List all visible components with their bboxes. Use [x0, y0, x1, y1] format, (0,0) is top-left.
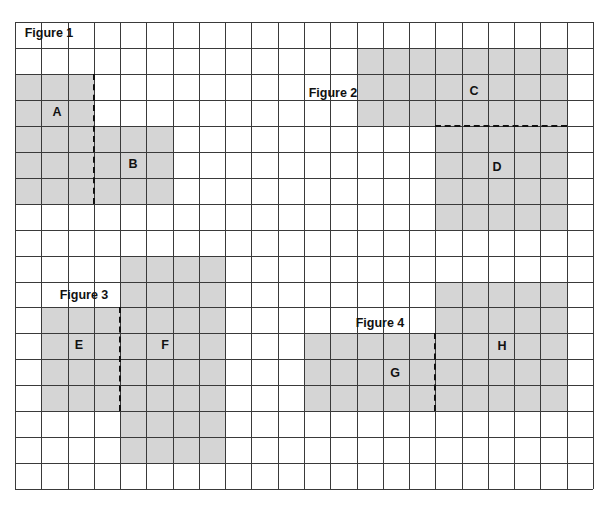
- grid-line-horizontal: [15, 230, 593, 231]
- grid-line-horizontal: [15, 100, 593, 101]
- figure-3-title: Figure 3: [60, 289, 109, 302]
- region-e-label: E: [75, 339, 83, 352]
- shaded-region-g: [304, 333, 435, 411]
- grid-diagram: Figure 1 A B Figure 2 C D Figure 3 E F F…: [0, 0, 608, 508]
- grid-line-horizontal: [15, 333, 593, 334]
- figure-1-title: Figure 1: [25, 27, 74, 40]
- cut-line-figure-1: [93, 74, 95, 204]
- shaded-region-a: [15, 74, 94, 204]
- grid-line-horizontal: [15, 307, 593, 308]
- grid-line-horizontal: [15, 359, 593, 360]
- grid-line-horizontal: [15, 22, 593, 23]
- grid-line-horizontal: [15, 152, 593, 153]
- grid-line-horizontal: [15, 204, 593, 205]
- grid-line-horizontal: [15, 256, 593, 257]
- cut-line-figure-2: [435, 125, 566, 127]
- grid-line-horizontal: [15, 74, 593, 75]
- region-c-label: C: [469, 85, 478, 98]
- cut-line-figure-4: [434, 333, 436, 411]
- region-h-label: H: [497, 340, 506, 353]
- region-f-label: F: [161, 339, 169, 352]
- figure-4-title: Figure 4: [356, 317, 405, 330]
- grid-line-horizontal: [15, 463, 593, 464]
- region-g-label: G: [390, 367, 400, 380]
- grid-line-vertical: [593, 22, 594, 489]
- grid-line-horizontal: [15, 48, 593, 49]
- grid-line-horizontal: [15, 411, 593, 412]
- figure-2-title: Figure 2: [309, 87, 358, 100]
- cut-line-figure-3: [119, 307, 121, 411]
- grid-line-horizontal: [15, 385, 593, 386]
- region-d-label: D: [492, 161, 501, 174]
- grid-line-horizontal: [15, 437, 593, 438]
- grid-line-horizontal: [15, 178, 593, 179]
- region-a-label: A: [52, 106, 61, 119]
- grid-line-horizontal: [15, 489, 593, 490]
- region-b-label: B: [128, 158, 137, 171]
- grid-line-horizontal: [15, 282, 593, 283]
